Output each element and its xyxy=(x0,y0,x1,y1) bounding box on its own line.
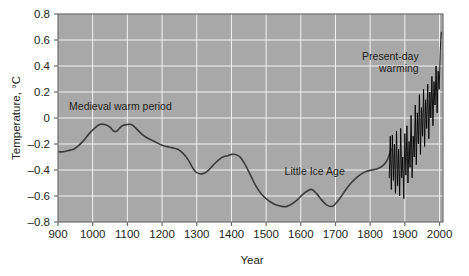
y-tick-label: 0.4 xyxy=(34,60,51,72)
x-tick-label: 1900 xyxy=(392,228,418,240)
annotation-line: Little Ice Age xyxy=(285,165,345,177)
annotation-label: Little Ice Age xyxy=(285,165,345,177)
chart-svg: 9001000110012001300140015001600170018001… xyxy=(0,0,469,276)
x-tick-label: 1800 xyxy=(357,228,383,240)
x-tick-label: 1600 xyxy=(288,228,314,240)
x-tick-label: 1300 xyxy=(184,228,210,240)
x-tick-label: 1200 xyxy=(149,228,175,240)
y-tick-label: –0.8 xyxy=(28,216,50,228)
x-tick-label: 1100 xyxy=(115,228,140,240)
y-tick-label: –0.6 xyxy=(28,190,50,202)
x-tick-label: 1400 xyxy=(219,228,245,240)
y-axis-title: Temperature, °C xyxy=(10,76,22,160)
y-tick-label: –0.4 xyxy=(28,164,51,176)
annotation-line: warming xyxy=(378,62,419,74)
x-tick-label: 2000 xyxy=(427,228,453,240)
x-tick-label: 900 xyxy=(48,228,67,240)
y-tick-label: 0.2 xyxy=(34,86,50,98)
y-tick-label: –0.2 xyxy=(28,138,50,150)
x-tick-label: 1000 xyxy=(80,228,106,240)
annotation-line: Present-day xyxy=(362,50,419,62)
y-tick-label: 0.6 xyxy=(34,34,50,46)
y-tick-label: 0.8 xyxy=(34,8,50,20)
x-axis-title: Year xyxy=(240,254,263,266)
annotation-line: Medieval warm period xyxy=(69,100,172,112)
y-tick-label: 0 xyxy=(44,112,50,124)
x-tick-label: 1500 xyxy=(253,228,279,240)
annotation-label: Medieval warm period xyxy=(69,100,172,112)
climate-temperature-chart: 9001000110012001300140015001600170018001… xyxy=(0,0,469,276)
x-tick-label: 1700 xyxy=(323,228,349,240)
